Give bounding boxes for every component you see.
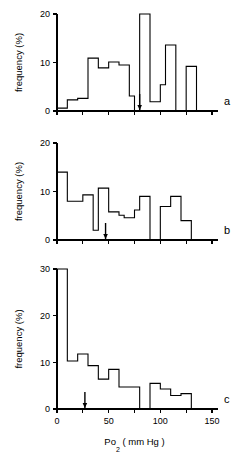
y-axis-title-a: frequency (%) [13, 33, 24, 92]
panel-b: 01020bfrequency (%) [13, 138, 230, 245]
y-axis-title-c: frequency (%) [13, 309, 24, 368]
figure-container: 01020afrequency (%)01020bfrequency (%)01… [0, 0, 239, 454]
x-tick-label-0: 0 [54, 416, 59, 426]
y-tick-label-a-10: 10 [40, 58, 50, 68]
y-tick-label-b-10: 10 [40, 187, 50, 197]
x-axis-title-symbol: Po [104, 436, 116, 447]
arrow-head-b [103, 234, 108, 239]
mean-arrow-b [103, 223, 108, 239]
y-tick-label-a-0: 0 [45, 106, 50, 116]
panel-letter-b: b [224, 224, 230, 236]
arrow-head-a [137, 105, 142, 110]
y-axis-title-b: frequency (%) [13, 162, 24, 221]
histogram-outline-c [57, 269, 191, 409]
y-tick-label-c-30: 30 [40, 264, 50, 274]
arrow-head-c [83, 403, 88, 408]
y-tick-label-c-10: 10 [40, 358, 50, 368]
mean-arrow-a [137, 94, 142, 110]
mean-arrow-c [83, 392, 88, 408]
y-tick-label-a-20: 20 [40, 9, 50, 19]
panel-letter-c: c [224, 393, 230, 405]
y-tick-label-b-20: 20 [40, 138, 50, 148]
x-axis-title-units: ( mm Hg ) [120, 436, 165, 447]
x-tick-label-100: 100 [153, 416, 168, 426]
x-tick-label-150: 150 [204, 416, 219, 426]
x-axis-title: Po2 ( mm Hg ) [104, 436, 164, 452]
histogram-outline-b [57, 172, 202, 240]
panel-a: 01020afrequency (%) [13, 9, 231, 116]
panel-letter-a: a [224, 95, 231, 107]
y-tick-label-c-0: 0 [45, 404, 50, 414]
panel-c: 0102030050100150cfrequency (%) [13, 264, 230, 426]
histogram-outline-a [57, 14, 202, 111]
x-tick-label-50: 50 [104, 416, 114, 426]
y-tick-label-c-20: 20 [40, 311, 50, 321]
histogram-figure: 01020afrequency (%)01020bfrequency (%)01… [0, 0, 239, 454]
y-tick-label-b-0: 0 [45, 235, 50, 245]
